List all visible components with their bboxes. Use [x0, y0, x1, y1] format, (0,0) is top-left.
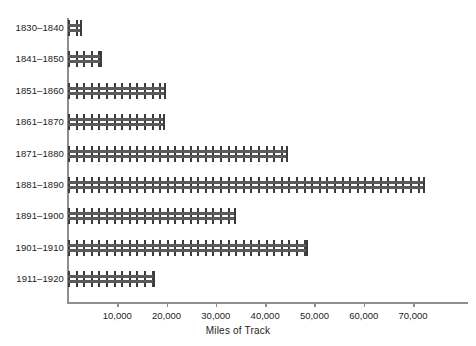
bar-end-cap: [286, 146, 288, 162]
bar-8: [68, 271, 155, 287]
track-graphic: [68, 240, 308, 256]
y-axis-label-4: 1871–1880: [2, 149, 64, 159]
track-graphic: [68, 20, 82, 36]
x-tick-label-4: 50,000: [300, 310, 329, 321]
bar-end-cap: [80, 20, 82, 36]
crossties: [68, 208, 236, 224]
track-graphic: [68, 208, 236, 224]
track-graphic: [68, 83, 166, 99]
bar-5: [68, 177, 425, 193]
crossties: [68, 177, 425, 193]
x-tick-mark-3: [265, 302, 267, 307]
track-graphic: [68, 177, 425, 193]
x-tick-mark-6: [413, 302, 415, 307]
rail-bottom: [68, 92, 166, 95]
bar-end-cap: [163, 114, 165, 130]
y-axis-label-1: 1841–1850: [2, 54, 64, 64]
x-tick-mark-2: [216, 302, 218, 307]
x-tick-mark-4: [314, 302, 316, 307]
rail-bottom: [68, 123, 165, 126]
bar-4: [68, 146, 288, 162]
bar-end-cap: [100, 51, 102, 67]
y-axis-category-labels: 1830–18401841–18501851–18601861–18701871…: [0, 0, 64, 346]
track-graphic: [68, 146, 288, 162]
rail-top: [68, 244, 308, 247]
rail-top: [68, 150, 288, 153]
rail-bottom: [68, 280, 155, 283]
rail-bottom: [68, 217, 236, 220]
y-axis-label-8: 1911–1920: [2, 274, 64, 284]
rail-bottom: [68, 155, 288, 158]
bar-1: [68, 51, 102, 67]
bar-end-cap: [164, 83, 166, 99]
crossties: [68, 146, 288, 162]
rail-top: [68, 181, 425, 184]
x-tick-mark-1: [167, 302, 169, 307]
rail-bottom: [68, 60, 102, 63]
crossties: [68, 114, 165, 130]
bar-0: [68, 20, 82, 36]
y-axis-label-3: 1861–1870: [2, 117, 64, 127]
x-tick-label-3: 40,000: [251, 310, 280, 321]
railroad-track-bar-chart: 1830–18401841–18501851–18601861–18701871…: [0, 0, 476, 346]
bar-2: [68, 83, 166, 99]
y-axis-label-6: 1891–1900: [2, 211, 64, 221]
bar-6: [68, 208, 236, 224]
x-axis-title: Miles of Track: [0, 325, 476, 336]
x-tick-label-2: 30,000: [201, 310, 230, 321]
rail-top: [68, 87, 166, 90]
x-tick-mark-5: [364, 302, 366, 307]
track-graphic: [68, 51, 102, 67]
bar-end-cap: [234, 208, 236, 224]
bar-end-cap: [423, 177, 425, 193]
crossties: [68, 51, 102, 67]
rail-bottom: [68, 249, 308, 252]
bar-3: [68, 114, 165, 130]
bar-end-cap: [306, 240, 308, 256]
rail-bottom: [68, 186, 425, 189]
y-axis-label-5: 1881–1890: [2, 180, 64, 190]
x-tick-mark-0: [117, 302, 119, 307]
rail-top: [68, 55, 102, 58]
crossties: [68, 240, 308, 256]
rail-top: [68, 275, 155, 278]
crossties: [68, 83, 166, 99]
x-tick-label-1: 20,000: [152, 310, 181, 321]
y-axis-label-0: 1830–1840: [2, 23, 64, 33]
track-graphic: [68, 271, 155, 287]
y-axis-label-2: 1851–1860: [2, 86, 64, 96]
bar-end-cap: [153, 271, 155, 287]
y-axis-label-7: 1901–1910: [2, 243, 64, 253]
rail-top: [68, 212, 236, 215]
rail-top: [68, 118, 165, 121]
x-tick-label-5: 60,000: [349, 310, 378, 321]
x-axis-line: [67, 302, 468, 304]
track-graphic: [68, 114, 165, 130]
bar-7: [68, 240, 308, 256]
x-tick-label-6: 70,000: [398, 310, 427, 321]
crossties: [68, 271, 155, 287]
x-tick-label-0: 10,000: [103, 310, 132, 321]
